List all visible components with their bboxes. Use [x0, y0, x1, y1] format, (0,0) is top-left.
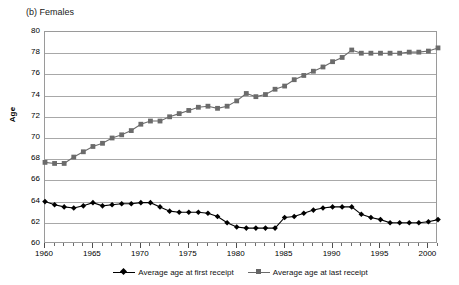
diamond-marker-icon: [113, 268, 135, 277]
x-tick-minor: [149, 243, 150, 246]
x-tick-major: [140, 243, 141, 248]
y-tick-label: 80: [18, 27, 40, 35]
x-tick-minor: [121, 243, 122, 246]
x-tick-label: 1960: [24, 249, 64, 258]
x-tick-minor: [63, 243, 64, 246]
x-tick-label: 1980: [216, 249, 256, 258]
plot-area: [44, 31, 437, 243]
x-tick-minor: [360, 243, 361, 246]
x-tick-minor: [207, 243, 208, 246]
x-tick-minor: [274, 243, 275, 246]
chart-figure: (b) Females Age 8078767472706866646260 1…: [0, 0, 459, 285]
y-tick-label: 68: [18, 154, 40, 162]
x-tick-minor: [312, 243, 313, 246]
y-tick-label: 64: [18, 197, 40, 205]
x-tick-label: 1970: [120, 249, 160, 258]
series-layer: [45, 32, 438, 244]
x-tick-minor: [322, 243, 323, 246]
x-tick-major: [44, 243, 45, 248]
x-tick-minor: [408, 243, 409, 246]
x-tick-minor: [217, 243, 218, 246]
x-tick-minor: [102, 243, 103, 246]
x-tick-minor: [351, 243, 352, 246]
y-tick-label: 60: [18, 239, 40, 247]
x-tick-minor: [169, 243, 170, 246]
x-tick-major: [379, 243, 380, 248]
x-tick-minor: [130, 243, 131, 246]
y-tick-label: 66: [18, 175, 40, 183]
x-tick-major: [236, 243, 237, 248]
x-tick-minor: [389, 243, 390, 246]
x-tick-minor: [245, 243, 246, 246]
x-tick-minor: [226, 243, 227, 246]
x-tick-label: 1990: [312, 249, 352, 258]
x-tick-label: 1975: [168, 249, 208, 258]
y-tick-label: 74: [18, 91, 40, 99]
x-tick-minor: [293, 243, 294, 246]
series-last-receipt: [43, 46, 441, 166]
legend-label-first-receipt: Average age at first receipt: [138, 268, 233, 277]
x-tick-minor: [341, 243, 342, 246]
x-tick-minor: [370, 243, 371, 246]
y-tick-label: 70: [18, 133, 40, 141]
x-tick-minor: [111, 243, 112, 246]
y-tick-label: 78: [18, 48, 40, 56]
x-tick-minor: [197, 243, 198, 246]
y-axis-tick-labels: 8078767472706866646260: [14, 31, 40, 243]
x-tick-major: [427, 243, 428, 248]
series-first-receipt: [42, 199, 441, 231]
x-tick-major: [284, 243, 285, 248]
x-tick-major: [188, 243, 189, 248]
x-tick-minor: [73, 243, 74, 246]
x-tick-minor: [82, 243, 83, 246]
x-tick-minor: [264, 243, 265, 246]
x-tick-label: 2000: [407, 249, 447, 258]
x-tick-minor: [54, 243, 55, 246]
x-tick-minor: [399, 243, 400, 246]
x-tick-major: [92, 243, 93, 248]
x-tick-major: [332, 243, 333, 248]
y-tick-label: 62: [18, 218, 40, 226]
panel-title: (b) Females: [26, 7, 74, 18]
x-tick-label: 1995: [359, 249, 399, 258]
y-tick-label: 72: [18, 112, 40, 120]
chart-legend: Average age at first receipt Average age…: [44, 265, 437, 279]
x-tick-label: 1965: [72, 249, 112, 258]
x-tick-minor: [303, 243, 304, 246]
x-tick-minor: [159, 243, 160, 246]
legend-item-last-receipt: Average age at last receipt: [248, 268, 368, 277]
x-tick-minor: [255, 243, 256, 246]
x-tick-label: 1985: [264, 249, 304, 258]
square-marker-icon: [248, 268, 270, 277]
y-tick-label: 76: [18, 69, 40, 77]
x-axis-tick-labels: 196019651970197519801985199019952000: [44, 249, 437, 261]
legend-label-last-receipt: Average age at last receipt: [273, 268, 368, 277]
x-axis-ticks: [44, 243, 437, 248]
x-tick-minor: [178, 243, 179, 246]
x-tick-minor: [418, 243, 419, 246]
legend-item-first-receipt: Average age at first receipt: [113, 268, 233, 277]
x-tick-minor: [437, 243, 438, 246]
